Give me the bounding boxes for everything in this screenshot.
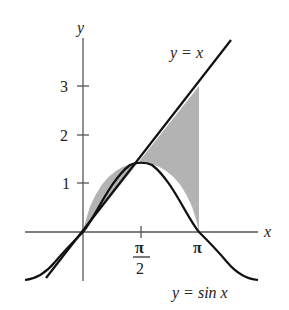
figure: y x 3 2 1 π 2 π y = x y = sin x: [0, 0, 289, 310]
x-tick-label-pi-over-2-num: π: [135, 239, 144, 256]
x-tick-label-pi: π: [193, 239, 202, 256]
y-tick-label-3: 3: [60, 78, 68, 95]
sine-label: y = sin x: [170, 284, 228, 302]
y-tick-label-2: 2: [60, 127, 68, 144]
y-axis-label: y: [75, 19, 85, 37]
x-axis-label: x: [263, 223, 271, 240]
y-tick-label-1: 1: [62, 175, 70, 192]
shaded-region: [83, 86, 199, 232]
line-label: y = x: [168, 44, 203, 62]
x-tick-label-pi-over-2-den: 2: [136, 260, 144, 277]
